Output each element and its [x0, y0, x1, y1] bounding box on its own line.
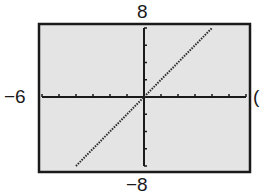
graphing-calculator-screen — [0, 0, 260, 195]
